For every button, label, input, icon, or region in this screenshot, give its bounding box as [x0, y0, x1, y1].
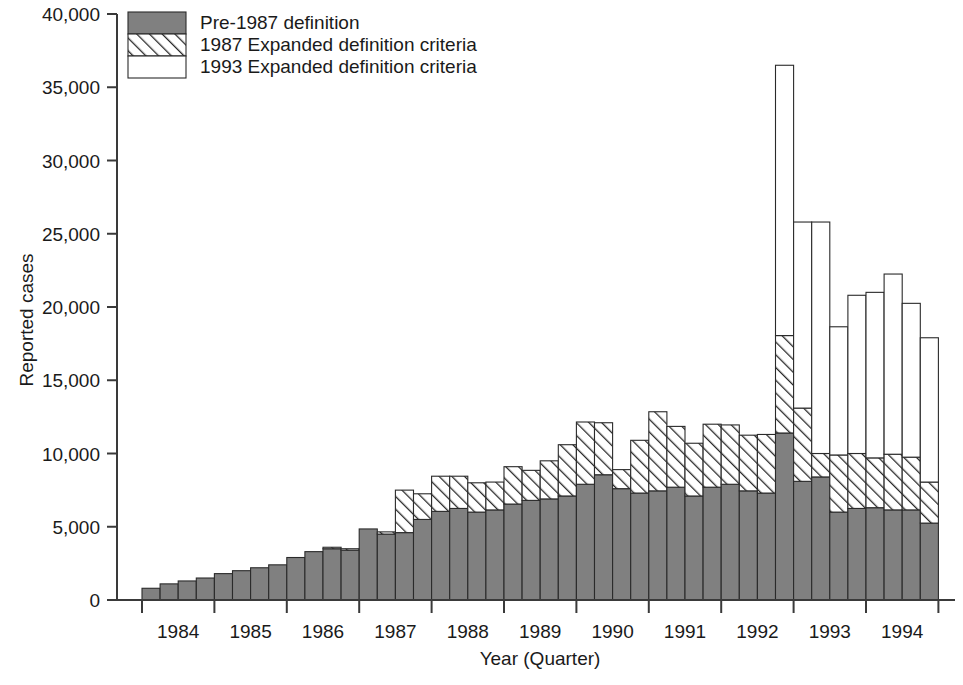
y-tick-label: 10,000 [42, 444, 100, 465]
bar-segment [178, 581, 196, 600]
bar-segment [776, 433, 794, 600]
bar-segment [902, 457, 920, 510]
bar-segment [649, 412, 667, 491]
bar-segment [721, 425, 739, 484]
bar-segment [323, 547, 341, 548]
bar-segment [613, 489, 631, 600]
bar-segment [269, 565, 287, 600]
bar-segment [558, 445, 576, 496]
bar-segment [667, 426, 685, 487]
bar-segment [794, 222, 812, 408]
bar-segment [902, 510, 920, 600]
bar-segment [685, 496, 703, 600]
bar-segment [395, 533, 413, 600]
x-tick-label: 1986 [302, 621, 344, 642]
bar-segment [902, 303, 920, 457]
bar-segment [685, 443, 703, 496]
x-tick-label: 1987 [374, 621, 416, 642]
x-tick-label: 1990 [591, 621, 633, 642]
bar-segment [450, 476, 468, 508]
chart-figure: 05,00010,00015,00020,00025,00030,00035,0… [0, 0, 963, 685]
x-tick-label: 1989 [519, 621, 561, 642]
bar-segment [558, 496, 576, 600]
bar-segment [866, 508, 884, 600]
bar-segment [794, 408, 812, 481]
bar-segment [721, 484, 739, 600]
bar-segment [613, 470, 631, 489]
bar-segment [595, 475, 613, 600]
bar-segment [830, 327, 848, 455]
bar-segment [414, 494, 432, 520]
bar-segment [576, 422, 594, 484]
bar-segment [450, 508, 468, 600]
bar-segment [504, 504, 522, 600]
x-tick-label: 1992 [736, 621, 778, 642]
y-tick-label: 35,000 [42, 77, 100, 98]
bar-segment [377, 532, 395, 534]
bar-segment [794, 481, 812, 600]
bar-segment [757, 434, 775, 493]
bar-segment [739, 491, 757, 600]
y-tick-label: 30,000 [42, 151, 100, 172]
bar-segment [504, 467, 522, 504]
bar-segment [486, 510, 504, 600]
legend-label: 1993 Expanded definition criteria [200, 56, 477, 77]
bar-segment [395, 490, 413, 532]
bar-segment [830, 512, 848, 600]
bar-segment [486, 482, 504, 510]
y-tick-label: 5,000 [52, 517, 100, 538]
bar-segment [323, 549, 341, 600]
bar-segment [884, 510, 902, 600]
bar-segment [468, 512, 486, 600]
bar-segment [830, 455, 848, 512]
bar-segment [540, 499, 558, 600]
bar-segment [631, 440, 649, 493]
legend-swatch [128, 34, 186, 56]
bar-segment [540, 461, 558, 499]
legend-swatch [128, 12, 186, 34]
bar-segment [920, 523, 938, 600]
legend-label: 1987 Expanded definition criteria [200, 34, 477, 55]
y-tick-label: 20,000 [42, 297, 100, 318]
bar-segment [631, 493, 649, 600]
bar-segment [866, 292, 884, 458]
chart-svg: 05,00010,00015,00020,00025,00030,00035,0… [0, 0, 963, 685]
bar-segment [667, 487, 685, 600]
bar-segment [812, 454, 830, 477]
bar-segment [884, 454, 902, 510]
bar-segment [776, 65, 794, 335]
x-tick-label: 1985 [229, 621, 271, 642]
bar-segment [576, 484, 594, 600]
bar-segment [359, 529, 377, 600]
bar-segment [848, 295, 866, 453]
bar-segment [341, 549, 359, 550]
bar-segment [432, 476, 450, 511]
bar-segment [848, 454, 866, 509]
legend-swatch [128, 56, 186, 78]
x-tick-label: 1993 [809, 621, 851, 642]
y-tick-label: 15,000 [42, 370, 100, 391]
bar-segment [196, 578, 214, 600]
x-tick-label: 1991 [664, 621, 706, 642]
bar-segment [739, 435, 757, 491]
bar-segment [776, 336, 794, 433]
bar-segment [812, 477, 830, 600]
x-tick-label: 1984 [157, 621, 200, 642]
bar-segment [848, 508, 866, 600]
bar-segment [305, 552, 323, 600]
bar-segment [214, 574, 232, 600]
bar-segment [920, 338, 938, 482]
legend-label: Pre-1987 definition [200, 12, 360, 33]
x-tick-label: 1994 [881, 621, 924, 642]
bar-segment [251, 568, 269, 600]
y-tick-label: 40,000 [42, 4, 100, 25]
y-tick-label: 25,000 [42, 224, 100, 245]
x-axis-title: Year (Quarter) [480, 648, 601, 669]
bar-segment [920, 482, 938, 523]
bar-segment [884, 274, 902, 454]
bar-segment [595, 423, 613, 475]
bar-segment [649, 491, 667, 600]
bar-segment [160, 584, 178, 600]
bar-segment [233, 571, 251, 600]
y-tick-label: 0 [89, 590, 100, 611]
